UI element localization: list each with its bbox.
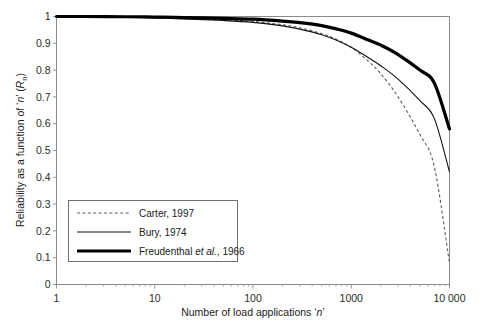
y-tick-label: 0.4 — [36, 171, 51, 183]
y-tick-label: 0.8 — [36, 64, 51, 76]
y-tick-label: 0.2 — [36, 225, 51, 237]
y-tick-label: 0.9 — [36, 37, 51, 49]
chart-background — [0, 0, 480, 326]
x-tick-label: 10 — [149, 292, 161, 304]
chart-legend: Carter, 1997 Bury, 1974 Freudenthal et a… — [69, 201, 246, 262]
legend-label-bury: Bury, 1974 — [139, 227, 187, 238]
y-tick-label: 0.7 — [36, 91, 51, 103]
reliability-vs-load-applications-chart: 00.10.20.30.40.50.60.70.80.91 1101001000… — [0, 0, 480, 326]
chart-figure: 00.10.20.30.40.50.60.70.80.91 1101001000… — [0, 0, 480, 326]
legend-label-carter: Carter, 1997 — [139, 208, 194, 219]
y-tick-label: 1 — [45, 10, 51, 22]
y-tick-label: 0.3 — [36, 198, 51, 210]
y-tick-label: 0.6 — [36, 117, 51, 129]
x-tick-label: 10 000 — [433, 292, 465, 304]
legend-label-freudenthal: Freudenthal et al., 1966 — [139, 246, 245, 257]
x-tick-label: 100 — [244, 292, 262, 304]
x-tick-label: 1000 — [340, 292, 364, 304]
y-tick-label: 0.1 — [36, 251, 51, 263]
y-tick-label: 0 — [45, 278, 51, 290]
x-axis-title: Number of load applications ‘n’ — [181, 306, 325, 318]
y-tick-label: 0.5 — [36, 144, 51, 156]
x-tick-label: 1 — [54, 292, 60, 304]
